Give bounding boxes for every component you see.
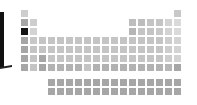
heatmap-cell — [57, 46, 64, 53]
heatmap-cell — [75, 55, 82, 62]
colorbar — [0, 12, 4, 68]
heatmap-cell — [30, 55, 37, 62]
heatmap-cell — [156, 28, 163, 35]
heatmap-cell — [174, 46, 181, 53]
heatmap-cell — [138, 28, 145, 35]
heatmap-cell — [102, 64, 109, 71]
heatmap-cell — [111, 64, 118, 71]
heatmap-cell — [156, 55, 163, 62]
heatmap-cell — [165, 46, 172, 53]
heatmap-cell — [48, 64, 55, 71]
heatmap-cell — [48, 79, 55, 86]
heatmap-cell — [129, 46, 136, 53]
heatmap-cell — [129, 37, 136, 44]
heatmap-cell — [111, 88, 118, 95]
heatmap-cell — [165, 64, 172, 71]
heatmap-cell — [174, 37, 181, 44]
heatmap-cell — [93, 64, 100, 71]
heatmap-cell — [21, 28, 28, 35]
heatmap-cell — [93, 88, 100, 95]
heatmap-cell — [48, 37, 55, 44]
heatmap-cell — [66, 46, 73, 53]
heatmap-cell — [39, 46, 46, 53]
heatmap-cell — [66, 55, 73, 62]
heatmap-cell — [174, 28, 181, 35]
heatmap-cell — [174, 55, 181, 62]
heatmap-cell — [129, 88, 136, 95]
heatmap-cell — [138, 37, 145, 44]
heatmap-cell — [39, 55, 46, 62]
heatmap-cell — [57, 88, 64, 95]
heatmap-cell — [156, 79, 163, 86]
heatmap-cell — [174, 88, 181, 95]
heatmap-cell — [75, 79, 82, 86]
heatmap-cell — [48, 46, 55, 53]
heatmap-cell — [138, 64, 145, 71]
heatmap-cell — [156, 46, 163, 53]
heatmap-cell — [57, 55, 64, 62]
heatmap-cell — [48, 88, 55, 95]
heatmap-cell — [93, 55, 100, 62]
heatmap-cell — [84, 37, 91, 44]
heatmap-cell — [120, 37, 127, 44]
heatmap-cell — [21, 37, 28, 44]
heatmap-cell — [138, 46, 145, 53]
heatmap-cell — [102, 55, 109, 62]
heatmap-cell — [156, 37, 163, 44]
heatmap-cell — [147, 37, 154, 44]
heatmap-cell — [102, 37, 109, 44]
heatmap-cell — [66, 79, 73, 86]
heatmap-cell — [111, 46, 118, 53]
heatmap-cell — [138, 19, 145, 26]
heatmap-cell — [165, 79, 172, 86]
heatmap-cell — [84, 46, 91, 53]
heatmap-cell — [84, 79, 91, 86]
heatmap-cell — [57, 64, 64, 71]
heatmap-cell — [102, 46, 109, 53]
heatmap-cell — [102, 79, 109, 86]
heatmap-cell — [156, 19, 163, 26]
heatmap-cell — [129, 28, 136, 35]
heatmap-cell — [66, 64, 73, 71]
heatmap-cell — [57, 79, 64, 86]
heatmap-cell — [174, 64, 181, 71]
heatmap-cell — [93, 37, 100, 44]
heatmap-cell — [147, 46, 154, 53]
heatmap-cell — [30, 19, 37, 26]
heatmap-cell — [111, 79, 118, 86]
heatmap-cell — [75, 46, 82, 53]
heatmap-cell — [147, 19, 154, 26]
heatmap-cell — [165, 88, 172, 95]
heatmap-cell — [156, 88, 163, 95]
heatmap-cell — [30, 64, 37, 71]
heatmap-cell — [48, 55, 55, 62]
heatmap-cell — [165, 19, 172, 26]
heatmap-cell — [120, 55, 127, 62]
heatmap-cell — [21, 46, 28, 53]
heatmap-cell — [93, 46, 100, 53]
heatmap-cell — [165, 28, 172, 35]
heatmap-cell — [147, 79, 154, 86]
heatmap-cell — [120, 88, 127, 95]
heatmap-cell — [21, 64, 28, 71]
heatmap-cell — [120, 79, 127, 86]
heatmap-cell — [75, 64, 82, 71]
heatmap-cell — [84, 64, 91, 71]
heatmap-cell — [129, 55, 136, 62]
heatmap-cell — [30, 28, 37, 35]
heatmap-cell — [120, 46, 127, 53]
heatmap-cell — [147, 88, 154, 95]
heatmap-cell — [174, 10, 181, 17]
heatmap-cell — [165, 37, 172, 44]
heatmap-cell — [75, 37, 82, 44]
heatmap-cell — [66, 37, 73, 44]
heatmap-cell — [138, 88, 145, 95]
heatmap-cell — [66, 88, 73, 95]
heatmap-cell — [147, 28, 154, 35]
heatmap-cell — [138, 79, 145, 86]
heatmap-cell — [21, 19, 28, 26]
heatmap-cell — [147, 55, 154, 62]
heatmap-cell — [39, 37, 46, 44]
heatmap-cell — [165, 55, 172, 62]
heatmap-cell — [21, 10, 28, 17]
